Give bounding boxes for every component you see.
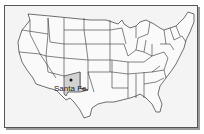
santa-fe-marker (70, 79, 73, 82)
us-map (0, 0, 204, 134)
us-outline (18, 12, 194, 118)
santa-fe-label: Santa Fe (54, 84, 86, 93)
